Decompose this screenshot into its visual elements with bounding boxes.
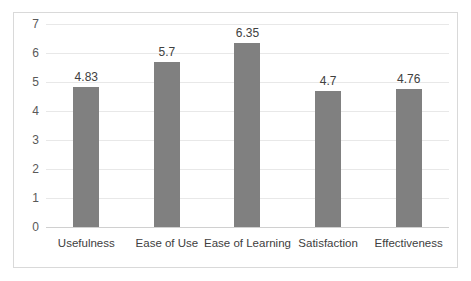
y-axis-tick-4: 4 <box>32 105 39 117</box>
bar-rect[interactable] <box>234 43 260 227</box>
y-axis-tick-2: 2 <box>32 163 39 175</box>
y-axis-tick-1: 1 <box>32 192 39 204</box>
bar-series: 4.83 Usefulness 5.7 Ease of Use 6.35 Eas… <box>46 24 449 227</box>
plot-area: 7 6 5 4 3 2 1 0 4.83 Usefulness 5.7 Ease… <box>46 24 449 227</box>
y-axis-tick-3: 3 <box>32 134 39 146</box>
gridline-0-baseline <box>46 227 449 228</box>
bar-group-usefulness[interactable]: 4.83 Usefulness <box>46 24 127 227</box>
y-axis-tick-5: 5 <box>32 76 39 88</box>
bar-group-satisfaction[interactable]: 4.7 Satisfaction <box>288 24 369 227</box>
x-axis-category-label: Satisfaction <box>298 238 357 250</box>
bar-group-effectiveness[interactable]: 4.76 Effectiveness <box>368 24 449 227</box>
bar-chart-figure: 7 6 5 4 3 2 1 0 4.83 Usefulness 5.7 Ease… <box>13 12 458 268</box>
y-axis-tick-7: 7 <box>32 18 39 30</box>
x-axis-category-label: Usefulness <box>58 238 115 250</box>
bar-value-label: 4.83 <box>75 71 98 83</box>
bar-group-ease-of-use[interactable]: 5.7 Ease of Use <box>127 24 208 227</box>
bar-rect[interactable] <box>396 89 422 227</box>
x-axis-category-label: Ease of Use <box>136 238 199 250</box>
bar-rect[interactable] <box>315 91 341 227</box>
bar-group-ease-of-learning[interactable]: 6.35 Ease of Learning <box>207 24 288 227</box>
bar-rect[interactable] <box>154 62 180 227</box>
bar-value-label: 4.7 <box>320 75 337 87</box>
x-axis-category-label: Ease of Learning <box>204 238 291 250</box>
bar-value-label: 5.7 <box>159 46 176 58</box>
bar-value-label: 4.76 <box>397 73 420 85</box>
x-axis-category-label: Effectiveness <box>375 238 443 250</box>
y-axis-tick-6: 6 <box>32 47 39 59</box>
bar-rect[interactable] <box>73 87 99 227</box>
y-axis-tick-0: 0 <box>32 221 39 233</box>
bar-value-label: 6.35 <box>236 27 259 39</box>
